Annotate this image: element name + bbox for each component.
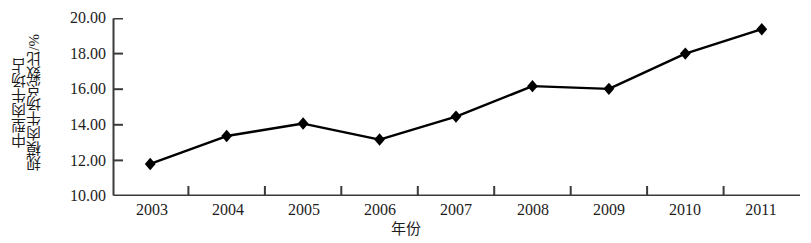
x-axis-title-text: 年份 bbox=[391, 219, 421, 239]
y-tick-label-16: 16.00 bbox=[70, 81, 106, 97]
line-chart: 中型肉牛场占 规模肉牛场总数比/% 20.00 18.00 16.00 14.0… bbox=[0, 0, 811, 243]
x-tick-label-2006: 2006 bbox=[364, 200, 396, 220]
data-point-2005 bbox=[298, 117, 309, 129]
x-tick-label-2008: 2008 bbox=[517, 200, 549, 220]
data-point-2006 bbox=[374, 133, 385, 145]
x-axis-title: 年份 bbox=[0, 219, 811, 239]
data-point-2010 bbox=[680, 47, 691, 59]
y-tick-label-10: 10.00 bbox=[70, 188, 106, 204]
data-point-2003 bbox=[145, 158, 156, 170]
y-tick-label-12: 12.00 bbox=[70, 153, 106, 169]
data-point-2011 bbox=[756, 23, 767, 35]
y-axis-tick-labels: 20.00 18.00 16.00 14.00 12.00 10.00 bbox=[56, 0, 106, 205]
plot-area bbox=[112, 18, 800, 196]
data-point-2007 bbox=[451, 110, 462, 122]
y-axis-title-line-1: 中型肉牛场占 bbox=[12, 58, 27, 148]
y-axis-title-line-2: 规模肉牛场总数比/% bbox=[27, 34, 42, 171]
series-line bbox=[150, 29, 762, 164]
data-point-2009 bbox=[603, 83, 614, 95]
x-tick-label-2005: 2005 bbox=[288, 200, 320, 220]
data-point-2004 bbox=[221, 130, 232, 142]
x-tick-label-2010: 2010 bbox=[669, 200, 701, 220]
data-series-layer bbox=[112, 18, 800, 196]
x-tick-label-2007: 2007 bbox=[440, 200, 472, 220]
x-tick-label-2009: 2009 bbox=[593, 200, 625, 220]
series-markers bbox=[145, 23, 767, 170]
y-axis-title: 中型肉牛场占 规模肉牛场总数比/% bbox=[0, 0, 52, 205]
x-tick-label-2003: 2003 bbox=[136, 200, 168, 220]
x-tick-label-2011: 2011 bbox=[745, 200, 776, 220]
x-tick-label-2004: 2004 bbox=[212, 200, 244, 220]
y-tick-label-20: 20.00 bbox=[70, 10, 106, 26]
y-tick-label-14: 14.00 bbox=[70, 117, 106, 133]
data-point-2008 bbox=[527, 80, 538, 92]
y-tick-label-18: 18.00 bbox=[70, 46, 106, 62]
